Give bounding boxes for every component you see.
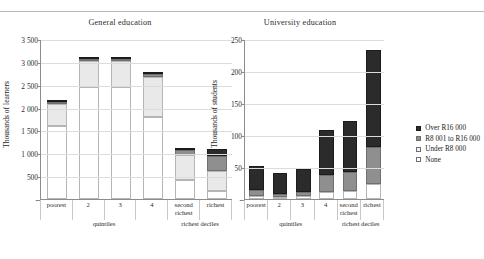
y-axis-label-general-education: Thousands of learners	[2, 44, 11, 184]
x-axis-category: 4	[136, 200, 168, 220]
y-axis-tick-mark	[37, 154, 40, 155]
bar-segment-none	[296, 196, 310, 199]
bar-segment-mid	[319, 175, 333, 192]
bar-group-university-education	[245, 40, 384, 199]
page-top-rule	[0, 11, 484, 12]
bar-segment-none	[273, 197, 287, 199]
y-axis-tick-mark	[241, 136, 244, 137]
y-axis-label-university-education: Thousands of students	[210, 44, 219, 184]
legend-item[interactable]: R8 001 to R16 000	[416, 135, 480, 143]
bar-4[interactable]	[319, 130, 333, 199]
bar-second-richest[interactable]	[343, 121, 357, 199]
y-axis-tick-label: 1 500	[21, 127, 38, 136]
bar-segment-none	[249, 196, 263, 199]
bar-segment-over	[366, 50, 380, 147]
bar-segment-under	[143, 77, 163, 117]
bar-poorest[interactable]	[47, 100, 67, 199]
bar-segment-none	[175, 180, 195, 199]
y-axis-tick-mark	[37, 40, 40, 41]
bar-segment-over	[249, 166, 263, 190]
legend-item[interactable]: Over R16 000	[416, 124, 480, 132]
gridline	[245, 72, 384, 73]
bar-segment-mid	[343, 172, 357, 192]
bar-segment-none	[319, 192, 333, 199]
legend-item-label: Over R16 000	[425, 124, 466, 132]
legend-item-label: Under R8 000	[425, 145, 466, 153]
y-axis-tick-label: 3 500	[21, 36, 38, 45]
gridline	[245, 104, 384, 105]
gridline	[245, 40, 384, 41]
x-axis-category: 2	[268, 200, 291, 220]
legend-swatch-icon	[416, 136, 421, 141]
bar-segment-under	[111, 61, 131, 87]
x-axis-group-label: richest deciles	[337, 220, 384, 232]
bar-segment-under	[47, 104, 67, 126]
bar-segment-mid	[366, 147, 380, 184]
y-axis-tick-label: 3 000	[21, 58, 38, 67]
x-axis-category: 2	[73, 200, 105, 220]
bar-segment-under	[79, 61, 99, 88]
chart-panel-university-education: University education Thousands of studen…	[200, 14, 484, 259]
y-axis-tick-label: 2 000	[21, 104, 38, 113]
bar-segment-none	[111, 87, 131, 199]
gridline	[245, 168, 384, 169]
y-axis-tick-mark	[37, 131, 40, 132]
legend-item-label: R8 001 to R16 000	[425, 135, 480, 143]
legend-item-label: None	[425, 156, 441, 164]
x-axis-category: richest	[361, 200, 384, 220]
x-axis-category: poorest	[244, 200, 268, 220]
bar-segment-none	[47, 126, 67, 199]
chart-title-university-education: University education	[200, 18, 400, 27]
y-axis-tick-label: 2 500	[21, 81, 38, 90]
x-axis-category: 4	[315, 200, 338, 220]
x-axis-category: second richest	[168, 200, 200, 220]
x-axis-groups-university-education: quintilesrichest deciles	[244, 220, 384, 232]
y-axis-tick-mark	[241, 168, 244, 169]
bar-4[interactable]	[143, 72, 163, 199]
x-axis-category: second richest	[338, 200, 361, 220]
x-axis-category: poorest	[40, 200, 73, 220]
bar-3[interactable]	[296, 169, 310, 199]
bar-segment-none	[79, 87, 99, 199]
y-axis-tick-mark	[37, 63, 40, 64]
y-axis-tick-mark	[37, 109, 40, 110]
x-axis-category: 3	[105, 200, 137, 220]
y-axis-tick-mark	[241, 40, 244, 41]
bar-segment-none	[143, 117, 163, 199]
bar-segment-over	[296, 169, 310, 192]
y-axis-tick-mark	[37, 86, 40, 87]
bar-poorest[interactable]	[249, 166, 263, 199]
gridline	[245, 136, 384, 137]
y-axis-tick-label: 1 000	[21, 150, 38, 159]
y-axis-tick-mark	[241, 72, 244, 73]
x-axis-group-label: quintiles	[244, 220, 337, 232]
bar-segment-over	[273, 173, 287, 194]
x-axis-group-label: quintiles	[40, 220, 168, 232]
legend-swatch-icon	[416, 147, 421, 152]
y-axis-tick-mark	[37, 177, 40, 178]
plot-area-university-education	[244, 40, 384, 200]
bar-segment-over	[343, 121, 357, 172]
bar-segment-none	[366, 184, 380, 199]
legend-swatch-icon	[416, 126, 421, 131]
bar-2[interactable]	[273, 173, 287, 199]
legend-item[interactable]: None	[416, 156, 480, 164]
figure-container: General education Thousands of learners …	[0, 14, 484, 259]
x-axis-categories-university-education: poorest234second richestrichest	[244, 200, 384, 220]
x-axis-category: 3	[291, 200, 314, 220]
chart-legend: Over R16 000R8 001 to R16 000Under R8 00…	[416, 124, 480, 166]
legend-swatch-icon	[416, 157, 421, 162]
bar-segment-none	[343, 191, 357, 199]
y-axis-tick-mark	[241, 104, 244, 105]
legend-item[interactable]: Under R8 000	[416, 145, 480, 153]
bar-second-richest[interactable]	[175, 148, 195, 199]
